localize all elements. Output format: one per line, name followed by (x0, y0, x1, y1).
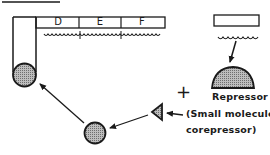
translation-arrow-icon (230, 41, 236, 62)
active-repressor-circle-icon (13, 64, 36, 87)
repressor-label: Repressor (212, 91, 268, 102)
plus-sign: + (176, 81, 191, 102)
corepressor-label-line2: corepressor) (186, 124, 256, 135)
corepressor-pointer-icon (167, 113, 183, 115)
inactive-repressor-icon (212, 67, 254, 88)
corepressor-triangle-icon (152, 104, 162, 120)
corepressor-label-line1: (Small molecule (186, 108, 270, 119)
regulator-gene-box (214, 15, 259, 26)
gene-label-d: D (38, 16, 78, 27)
operator-binding-arrow-icon (40, 84, 84, 123)
mrna-wave (44, 34, 160, 36)
gene-label-e: E (80, 16, 120, 27)
regulator-mrna-wave (218, 37, 258, 39)
complex-circle-icon (85, 123, 106, 144)
gene-label-f: F (122, 16, 162, 27)
binding-arrow-icon (110, 115, 148, 128)
